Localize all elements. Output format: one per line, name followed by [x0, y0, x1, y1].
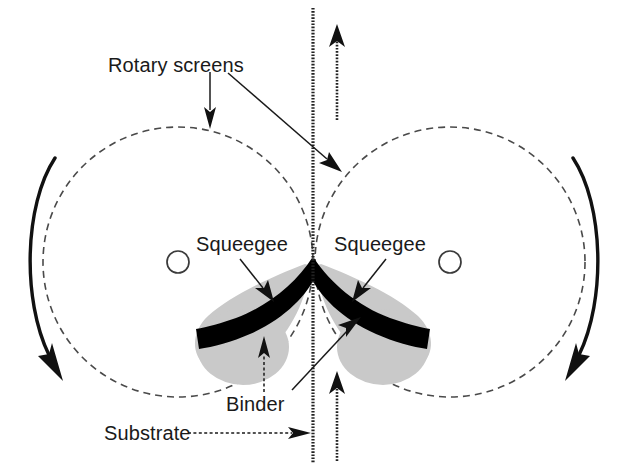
rotary-screens-label: Rotary screens: [108, 54, 244, 76]
rotary-screen-diagram: Rotary screens Squeegee Squeegee Binder …: [0, 0, 626, 471]
right-screen-axis-icon: [439, 251, 461, 273]
web-direction-arrow-top: [329, 24, 345, 120]
substrate-label: Substrate: [104, 422, 191, 444]
left-rotation-arrow: [30, 158, 63, 381]
left-screen-axis-icon: [167, 251, 189, 273]
diagram-root: Rotary screens Squeegee Squeegee Binder …: [0, 0, 626, 471]
leader-rotary-screens-right: [228, 73, 342, 172]
leader-substrate: [188, 427, 311, 439]
binder-label: Binder: [226, 393, 285, 415]
web-direction-arrow-bottom: [329, 371, 345, 461]
right-rotation-arrow: [565, 158, 598, 381]
squeegee-right-label: Squeegee: [334, 233, 426, 255]
squeegee-left-label: Squeegee: [196, 233, 288, 255]
leader-rotary-screens-left: [204, 72, 216, 129]
